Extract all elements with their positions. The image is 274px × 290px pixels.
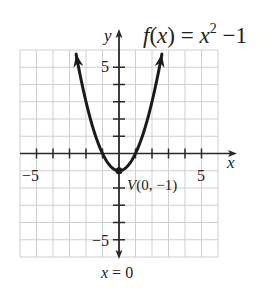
axis-of-symmetry-label: x = 0 bbox=[100, 264, 133, 281]
y-tick-label-5: 5 bbox=[101, 58, 109, 75]
y-tick-label-neg5: −5 bbox=[92, 232, 109, 249]
chart-title: f(x) = x2 −1 bbox=[143, 21, 247, 48]
y-axis-label: y bbox=[102, 26, 112, 45]
parabola-chart: y x −5 5 5 −5 f(x) = x2 −1 V(0, −1) x = … bbox=[0, 0, 274, 290]
x-tick-label-neg5: −5 bbox=[22, 167, 39, 184]
x-tick-label-5: 5 bbox=[197, 167, 205, 184]
vertex-point bbox=[116, 167, 123, 174]
x-axis-label: x bbox=[226, 153, 235, 172]
vertex-label: V(0, −1) bbox=[127, 177, 177, 194]
